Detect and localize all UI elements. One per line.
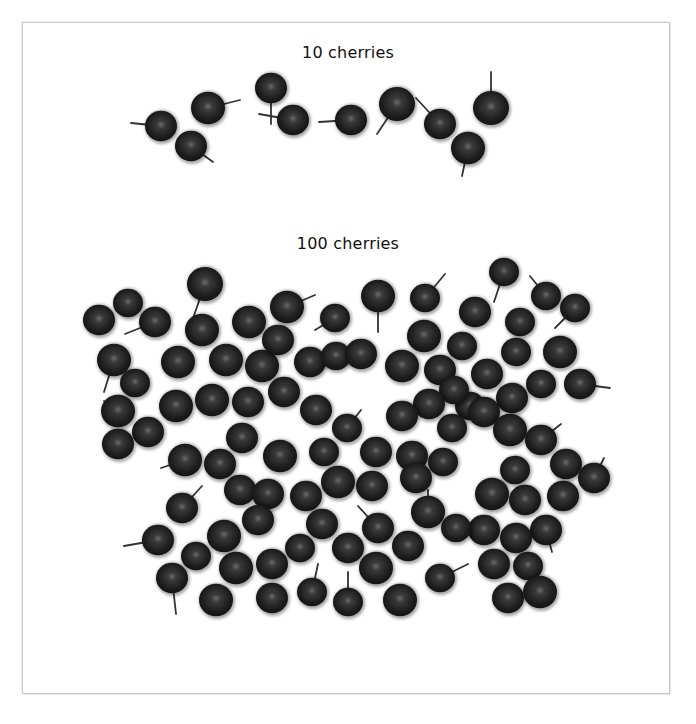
cherries-illustration [0,0,696,724]
cherry [191,92,225,124]
cherry [101,395,135,427]
cherry [441,514,471,543]
cherry [547,481,579,511]
cherry [207,520,241,552]
cherry [492,583,524,613]
cherry [500,523,532,553]
cherry [113,289,143,318]
cherry [309,438,339,467]
cherry [297,578,327,607]
cherry [501,338,531,367]
cherry [268,377,300,407]
cherry [473,91,509,125]
cherry [142,525,174,555]
cherry [232,306,266,338]
cherry [97,344,131,376]
cherry [356,471,388,501]
cherry [359,552,393,584]
cherry [209,344,243,376]
cherry [320,304,350,333]
cherry [505,308,535,337]
cherry [255,73,287,103]
cherry [379,87,415,121]
cherry [263,440,297,472]
cherry [145,111,177,141]
cherry [195,384,229,416]
cherry [285,534,315,563]
cherry [478,549,510,579]
cherry [290,481,322,511]
cherry [232,387,264,417]
group-title-100-cherries: 100 cherries [0,234,696,253]
cherry [168,444,202,476]
cherry [181,542,211,571]
cherry [428,448,458,477]
cherry [345,339,377,369]
cherry [335,105,367,135]
cherry [187,267,223,301]
cherry [530,515,562,545]
cherry-group-100 [83,257,612,619]
group-title-10-cherries: 10 cherries [0,43,696,62]
cherry [526,370,556,399]
cherry [560,294,590,323]
cherry [300,395,332,425]
cherry [256,583,288,613]
cherry [204,449,236,479]
cherry [459,297,491,327]
cherry [277,105,309,135]
cherry [132,417,164,447]
cherry [509,485,541,515]
cherry [159,390,193,422]
cherry [550,449,582,479]
cherry [523,576,557,608]
cherry [333,588,363,617]
cherry [424,109,456,139]
cherry [531,282,561,311]
cherry [294,347,326,377]
cherry [411,496,445,528]
cherry [410,284,440,313]
cherry [102,429,134,459]
cherry [383,584,417,616]
cherry [321,466,355,498]
cherry [185,314,219,346]
cherry [332,414,362,443]
cherry [262,325,294,355]
cherry [400,463,432,493]
cherry [392,531,424,561]
cherry [224,475,256,505]
cherry [219,552,253,584]
cherry [139,307,171,337]
cherry [407,320,441,352]
cherry [270,291,304,323]
cherry [306,509,338,539]
cherry [166,493,198,523]
cherry [120,369,150,398]
cherry [386,401,418,431]
cherry [471,359,503,389]
cherry [564,369,596,399]
cherry [361,280,395,312]
cherry [161,346,195,378]
cherry-group-10 [131,72,511,176]
cherry [475,478,509,510]
cherry [360,437,392,467]
cherry [385,350,419,382]
cherry [493,414,527,446]
cherry [256,549,288,579]
cherry [543,336,577,368]
cherry [500,456,530,485]
cherry [437,414,467,443]
cherry [425,564,455,593]
cherry [489,258,519,287]
cherry [175,131,207,161]
cherry [362,513,394,543]
cherry [525,425,557,455]
cherry [226,423,258,453]
cherry [447,332,477,361]
cherry [83,305,115,335]
cherry [578,463,610,493]
cherry [156,563,188,593]
cherry [332,533,364,563]
